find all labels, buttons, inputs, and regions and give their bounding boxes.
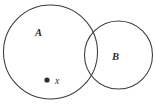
set-circle-a	[4, 5, 98, 99]
set-label-a: A	[34, 27, 42, 38]
venn-diagram-canvas: A B x	[0, 0, 155, 105]
point-label-x: x	[54, 76, 60, 86]
point-marker-x	[44, 77, 49, 82]
venn-diagram-figure: A B x	[0, 0, 155, 105]
set-label-b: B	[111, 51, 119, 62]
